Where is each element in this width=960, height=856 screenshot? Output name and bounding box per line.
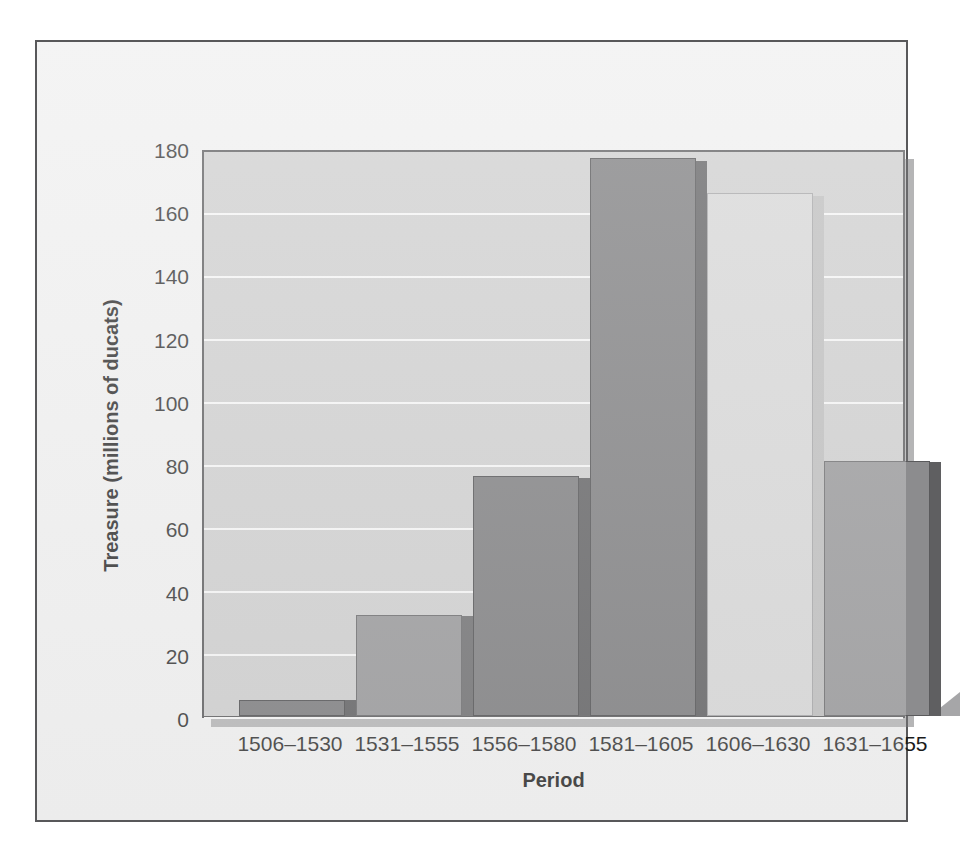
y-axis-tick-label: 20 bbox=[166, 646, 189, 667]
x-axis-tick-label: 1631–1655 bbox=[793, 732, 957, 756]
bar-face bbox=[824, 461, 930, 716]
bar-side-face bbox=[930, 462, 941, 716]
bar-face bbox=[707, 193, 813, 716]
bar-face bbox=[239, 700, 345, 716]
bar-side-face bbox=[462, 616, 473, 716]
x-axis-tick-layer: 1506–1530 1531–1555 1556–1580 1581–1605 … bbox=[202, 732, 905, 762]
bar-side-face bbox=[579, 478, 590, 716]
y-axis-tick-label: 100 bbox=[154, 393, 189, 414]
y-axis-tick-label: 60 bbox=[166, 519, 189, 540]
y-axis-tick-label: 80 bbox=[166, 456, 189, 477]
y-axis-tick-label: 160 bbox=[154, 203, 189, 224]
y-axis-tick-label: 40 bbox=[166, 583, 189, 604]
y-axis-tick-label: 120 bbox=[154, 330, 189, 351]
plot-area bbox=[202, 150, 905, 718]
gridline bbox=[204, 717, 903, 719]
bar-face bbox=[473, 476, 579, 716]
y-axis-title: Treasure (millions of ducats) bbox=[100, 152, 123, 720]
y-axis-tick-label: 180 bbox=[154, 140, 189, 161]
bar-side-face bbox=[813, 196, 824, 716]
bar-face bbox=[356, 615, 462, 716]
y-axis-tick-label: 140 bbox=[154, 266, 189, 287]
bar-face bbox=[590, 158, 696, 716]
bar-side-face bbox=[696, 161, 707, 716]
y-axis-tick-label: 0 bbox=[177, 709, 189, 730]
bar-side-face bbox=[345, 700, 356, 716]
x-axis-title: Period bbox=[202, 769, 905, 792]
figure-frame: 180 160 140 120 100 80 60 40 20 0 Treasu… bbox=[35, 40, 908, 822]
